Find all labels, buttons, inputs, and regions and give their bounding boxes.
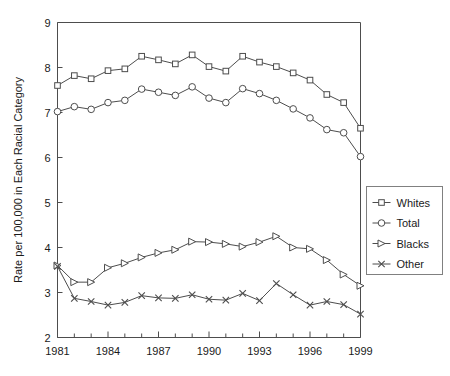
legend: WhitesTotalBlacksOther bbox=[367, 187, 443, 275]
marker-square bbox=[55, 83, 61, 89]
y-axis-title: Rate per 100,000 in Each Racial Category bbox=[12, 76, 24, 283]
marker-square bbox=[105, 68, 111, 74]
marker-triangle bbox=[105, 264, 112, 271]
marker-triangle bbox=[256, 239, 263, 246]
marker-triangle bbox=[222, 240, 229, 247]
marker-square bbox=[72, 73, 78, 79]
marker-circle bbox=[105, 99, 112, 106]
marker-circle bbox=[206, 95, 213, 102]
marker-square bbox=[173, 61, 179, 67]
marker-circle bbox=[54, 108, 61, 115]
y-tick-label: 5 bbox=[44, 197, 50, 209]
marker-triangle bbox=[71, 279, 78, 286]
legend-label: Whites bbox=[397, 197, 431, 209]
marker-triangle bbox=[307, 245, 314, 252]
marker-circle bbox=[324, 126, 331, 133]
marker-circle bbox=[138, 86, 145, 93]
marker-triangle bbox=[340, 271, 347, 278]
series-other bbox=[54, 263, 363, 317]
marker-circle bbox=[122, 97, 129, 104]
x-axis: 1981198419871990199319961999 bbox=[45, 332, 372, 357]
marker-circle bbox=[378, 220, 385, 227]
y-tick-label: 4 bbox=[44, 242, 50, 254]
x-tick-label: 1996 bbox=[298, 345, 322, 357]
marker-circle bbox=[256, 90, 263, 97]
marker-triangle bbox=[155, 249, 162, 256]
series-whites bbox=[55, 52, 364, 131]
marker-square bbox=[206, 64, 212, 70]
marker-circle bbox=[273, 97, 280, 104]
y-tick-label: 9 bbox=[44, 17, 50, 29]
y-tick-label: 3 bbox=[44, 287, 50, 299]
series-line bbox=[58, 266, 361, 314]
marker-x bbox=[290, 292, 296, 298]
marker-square bbox=[189, 52, 195, 58]
marker-square bbox=[379, 200, 385, 206]
x-tick-label: 1981 bbox=[45, 345, 69, 357]
x-tick-label: 1990 bbox=[197, 345, 221, 357]
legend-label: Blacks bbox=[397, 238, 430, 250]
marker-circle bbox=[290, 106, 297, 113]
marker-square bbox=[341, 100, 347, 106]
y-tick-label: 7 bbox=[44, 107, 50, 119]
y-tick-label: 2 bbox=[44, 332, 50, 344]
marker-square bbox=[223, 68, 229, 74]
marker-triangle bbox=[138, 254, 145, 261]
marker-circle bbox=[357, 153, 364, 160]
marker-square bbox=[274, 64, 280, 70]
marker-triangle bbox=[189, 238, 196, 245]
marker-x bbox=[239, 290, 245, 296]
x-tick-label: 1993 bbox=[247, 345, 271, 357]
marker-x bbox=[273, 280, 279, 286]
marker-triangle bbox=[206, 239, 213, 246]
chart-page: 234567891981198419871990199319961999Rate… bbox=[0, 0, 450, 376]
marker-square bbox=[290, 70, 296, 76]
marker-triangle bbox=[172, 246, 179, 253]
marker-triangle bbox=[239, 243, 246, 250]
marker-square bbox=[88, 76, 94, 82]
marker-square bbox=[122, 66, 128, 72]
y-tick-label: 6 bbox=[44, 152, 50, 164]
marker-square bbox=[240, 53, 246, 59]
y-axis: 23456789 bbox=[44, 17, 62, 344]
marker-x bbox=[256, 297, 262, 303]
y-tick-label: 8 bbox=[44, 62, 50, 74]
marker-circle bbox=[88, 106, 95, 113]
marker-circle bbox=[307, 115, 314, 122]
x-tick-label: 1987 bbox=[146, 345, 170, 357]
marker-circle bbox=[71, 103, 78, 110]
marker-circle bbox=[223, 99, 230, 106]
marker-circle bbox=[155, 89, 162, 96]
marker-circle bbox=[239, 85, 246, 92]
marker-circle bbox=[340, 129, 347, 136]
x-tick-label: 1999 bbox=[348, 345, 372, 357]
legend-label: Total bbox=[397, 217, 420, 229]
series-total bbox=[54, 84, 364, 160]
marker-square bbox=[358, 125, 364, 131]
marker-square bbox=[324, 92, 330, 98]
x-tick-label: 1984 bbox=[96, 345, 120, 357]
legend-label: Other bbox=[397, 258, 425, 270]
marker-circle bbox=[172, 92, 179, 99]
marker-square bbox=[307, 77, 313, 83]
marker-square bbox=[139, 53, 145, 59]
marker-triangle bbox=[121, 260, 128, 267]
marker-square bbox=[257, 59, 263, 65]
marker-triangle bbox=[290, 244, 297, 251]
series-blacks bbox=[54, 233, 364, 290]
marker-circle bbox=[189, 84, 196, 91]
marker-triangle bbox=[273, 233, 280, 240]
line-chart: 234567891981198419871990199319961999Rate… bbox=[0, 0, 450, 376]
marker-square bbox=[156, 57, 162, 63]
